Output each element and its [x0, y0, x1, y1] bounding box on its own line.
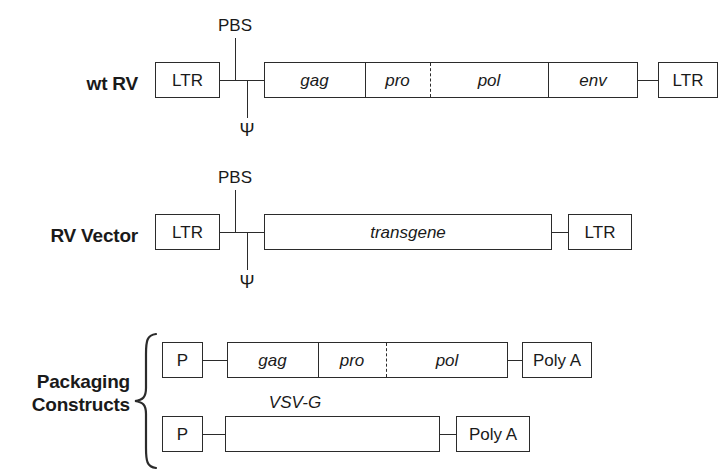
psi-tick-row1 — [247, 80, 248, 118]
packaging-c1-gene-pro[interactable]: pro — [318, 342, 386, 378]
wt-rv-right-ltr-box[interactable]: LTR — [658, 62, 718, 98]
packaging-c2-gene-label: VSV-G — [255, 393, 335, 413]
wt-rv-gene-gag[interactable]: gag — [264, 62, 365, 98]
packaging-c1-polya-label: Poly A — [533, 352, 581, 369]
rv-vector-right-ltr-box[interactable]: LTR — [568, 214, 632, 250]
pbs-label-row2: PBS — [205, 168, 265, 188]
wt-rv-right-connector — [638, 80, 658, 81]
wt-rv-left-ltr-label: LTR — [172, 72, 203, 89]
wt-rv-gene-pol[interactable]: pol — [430, 62, 548, 98]
packaging-c1-polya-box[interactable]: Poly A — [522, 342, 592, 378]
wt-rv-gene-gag-label: gag — [300, 72, 328, 89]
packaging-c2-polya-connector — [440, 434, 456, 435]
packaging-label-line1: Packaging — [2, 370, 130, 393]
row-label-wt-rv: wt RV — [18, 73, 138, 95]
packaging-c1-promoter-box[interactable]: P — [162, 342, 203, 378]
wt-rv-right-ltr-label: LTR — [673, 72, 704, 89]
pbs-tick-row1 — [235, 38, 236, 80]
packaging-c2-polya-box[interactable]: Poly A — [456, 416, 530, 452]
wt-rv-gene-pro-label: pro — [385, 72, 410, 89]
rv-vector-left-ltr-label: LTR — [172, 224, 203, 241]
packaging-c2-polya-label: Poly A — [469, 426, 517, 443]
wt-rv-gene-pro[interactable]: pro — [365, 62, 430, 98]
packaging-c1-promoter-connector — [203, 360, 227, 361]
packaging-c2-gene-box[interactable] — [225, 416, 440, 452]
packaging-c1-gene-pol[interactable]: pol — [386, 342, 508, 378]
psi-label-row1: Ψ — [227, 120, 267, 141]
packaging-c1-promoter-label: P — [177, 352, 188, 369]
packaging-brace — [132, 332, 158, 470]
row-label-rv-vector: RV Vector — [10, 225, 138, 247]
wt-rv-gene-env-label: env — [579, 72, 606, 89]
packaging-c2-promoter-label: P — [177, 426, 188, 443]
packaging-label-line2: Constructs — [2, 393, 130, 416]
rv-vector-right-ltr-label: LTR — [585, 224, 616, 241]
packaging-c1-gene-gag[interactable]: gag — [227, 342, 318, 378]
wt-rv-left-connector — [220, 80, 264, 81]
packaging-c1-gene-gag-label: gag — [258, 352, 286, 369]
rv-vector-left-ltr-box[interactable]: LTR — [155, 214, 220, 250]
figure-canvas: wt RV PBS Ψ LTR gag pro pol env LTR RV V… — [0, 0, 728, 475]
packaging-c1-gene-pro-label: pro — [340, 352, 365, 369]
pbs-tick-row2 — [235, 190, 236, 232]
wt-rv-gene-pol-label: pol — [478, 72, 501, 89]
rv-vector-left-connector — [220, 232, 264, 233]
rv-vector-right-connector — [552, 232, 568, 233]
rv-vector-transgene-label: transgene — [370, 224, 446, 241]
packaging-c2-promoter-connector — [203, 434, 225, 435]
pbs-label-row1: PBS — [205, 16, 265, 36]
psi-tick-row2 — [247, 232, 248, 270]
packaging-c1-polya-connector — [508, 360, 522, 361]
rv-vector-transgene-box[interactable]: transgene — [264, 214, 552, 250]
wt-rv-gene-env[interactable]: env — [548, 62, 638, 98]
packaging-c2-promoter-box[interactable]: P — [162, 416, 203, 452]
row-label-packaging-constructs: Packaging Constructs — [2, 370, 130, 416]
packaging-c1-gene-pol-label: pol — [436, 352, 459, 369]
psi-label-row2: Ψ — [227, 272, 267, 293]
wt-rv-left-ltr-box[interactable]: LTR — [155, 62, 220, 98]
